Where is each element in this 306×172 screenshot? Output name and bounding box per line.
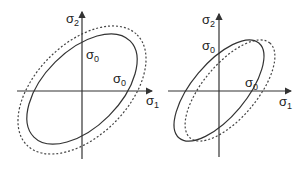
right-panel-graphics — [0, 0, 306, 172]
right-sigma0-y-intercept-label: σ0 — [202, 39, 215, 52]
yield-surface-figure: σ2 σ0 σ0 σ1 σ2 σ0 σ0 σ1 — [0, 0, 306, 172]
right-sigma2-label: σ2 — [202, 13, 215, 26]
right-sigma0-x-intercept-label: σ0 — [245, 76, 258, 89]
right-sigma1-label: σ1 — [279, 95, 292, 108]
